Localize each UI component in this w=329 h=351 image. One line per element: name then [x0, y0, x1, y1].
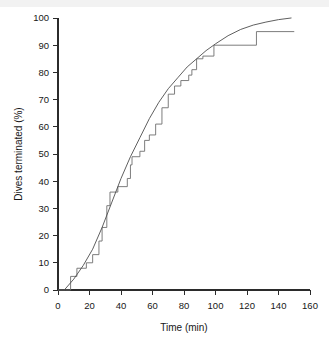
y-tick-label: 70 [38, 94, 49, 105]
x-axis-tick-labels: 0 20 40 60 80 100 120 140 160 [55, 300, 318, 311]
figure-panel: 0 10 20 30 40 50 60 70 80 90 100 0 [0, 0, 329, 351]
y-tick-label: 90 [38, 40, 49, 51]
x-tick-label: 0 [55, 300, 60, 311]
y-tick-label: 50 [38, 148, 49, 159]
x-tick-label: 20 [84, 300, 95, 311]
y-tick-label: 20 [38, 230, 49, 241]
chart-canvas: 0 10 20 30 40 50 60 70 80 90 100 0 [0, 0, 329, 351]
y-tick-label: 40 [38, 176, 49, 187]
y-axis-tick-labels: 0 10 20 30 40 50 60 70 80 90 100 [33, 12, 49, 295]
x-tick-label: 140 [271, 300, 287, 311]
y-tick-label: 100 [33, 12, 49, 23]
step-series-line [58, 32, 294, 290]
x-tick-label: 100 [208, 300, 224, 311]
y-axis-title: Dives terminated (%) [13, 107, 24, 200]
y-tick-label: 10 [38, 257, 49, 268]
x-tick-label: 60 [147, 300, 158, 311]
fitted-curve-line [64, 18, 291, 290]
x-axis-ticks [58, 290, 310, 295]
x-tick-label: 40 [116, 300, 127, 311]
y-tick-label: 0 [44, 284, 49, 295]
x-tick-label: 160 [302, 300, 318, 311]
y-tick-label: 80 [38, 67, 49, 78]
x-axis-title: Time (min) [160, 322, 207, 333]
y-tick-label: 60 [38, 121, 49, 132]
x-tick-label: 120 [239, 300, 255, 311]
y-axis-ticks [53, 18, 58, 290]
x-tick-label: 80 [179, 300, 190, 311]
y-tick-label: 30 [38, 203, 49, 214]
